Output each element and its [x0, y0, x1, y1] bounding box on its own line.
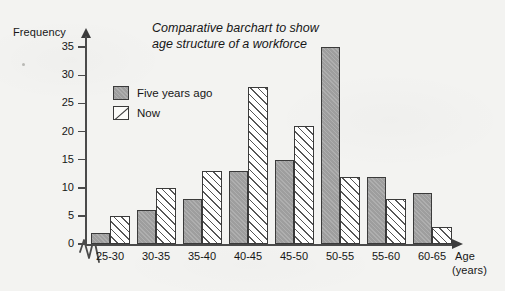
y-axis-tick-label: 15 — [44, 153, 74, 165]
y-axis-tick — [78, 131, 86, 133]
y-axis-tick — [78, 75, 86, 77]
y-axis-tick-label: 35 — [44, 40, 74, 52]
x-axis-label-35-40: 35-40 — [179, 250, 225, 262]
bar-group — [87, 36, 133, 244]
x-axis-line — [85, 244, 456, 246]
chart-legend: Five years agoNow — [113, 84, 212, 124]
x-axis-label-30-35: 30-35 — [133, 250, 179, 262]
bar-30-35-now — [156, 188, 176, 244]
chart-page: Comparative barchart to show age structu… — [0, 0, 505, 291]
y-axis-tick — [78, 243, 86, 245]
bar-50-55-five-years-ago — [321, 47, 341, 244]
bar-25-30-now — [110, 216, 130, 244]
bar-45-50-now — [294, 126, 314, 244]
y-axis-tick-label: 25 — [44, 96, 74, 108]
y-axis-tick-label: 5 — [44, 209, 74, 221]
bar-group — [133, 36, 179, 244]
x-axis-label-25-30: 25-30 — [87, 250, 133, 262]
x-axis-label-50-55: 50-55 — [317, 250, 363, 262]
x-axis-label-45-50: 45-50 — [271, 250, 317, 262]
bar-group — [317, 36, 363, 244]
y-axis-title: Frequency — [13, 26, 66, 38]
bar-35-40-now — [202, 171, 222, 244]
y-axis-tick-label: 20 — [44, 125, 74, 137]
legend-item: Five years ago — [113, 84, 212, 101]
y-axis-tick — [78, 46, 86, 48]
bar-group — [271, 36, 317, 244]
x-axis-label-55-60: 55-60 — [363, 250, 409, 262]
legend-swatch-now — [113, 106, 129, 120]
chart-title-line-1: Comparative barchart to show — [152, 20, 402, 36]
bar-25-30-five-years-ago — [91, 233, 111, 244]
scan-artifact-speck — [22, 63, 25, 66]
legend-label: Five years ago — [137, 87, 212, 99]
legend-label: Now — [137, 107, 160, 119]
y-axis-tick-label: 0 — [44, 237, 74, 249]
y-axis-tick — [78, 159, 86, 161]
bar-40-45-five-years-ago — [229, 171, 249, 244]
legend-swatch-five-years-ago — [113, 86, 129, 100]
legend-item: Now — [113, 104, 212, 121]
bar-45-50-five-years-ago — [275, 160, 295, 244]
bar-55-60-five-years-ago — [367, 177, 387, 244]
bar-group — [179, 36, 225, 244]
x-axis-label-60-65: 60-65 — [409, 250, 455, 262]
y-axis-tick — [78, 187, 86, 189]
bar-35-40-five-years-ago — [183, 199, 203, 244]
x-axis-title: Age — [455, 250, 475, 262]
bar-55-60-now — [386, 199, 406, 244]
bar-group — [409, 36, 455, 244]
y-axis-tick-label: 30 — [44, 68, 74, 80]
bar-50-55-now — [340, 177, 360, 244]
bar-40-45-now — [248, 87, 268, 244]
x-axis-label-40-45: 40-45 — [225, 250, 271, 262]
bar-group — [225, 36, 271, 244]
x-axis-title-units: (years) — [452, 264, 487, 276]
bar-60-65-now — [432, 227, 452, 244]
bar-60-65-five-years-ago — [413, 193, 433, 244]
bar-30-35-five-years-ago — [137, 210, 157, 244]
y-axis-tick — [78, 103, 86, 105]
plot-area — [87, 36, 455, 244]
y-axis-tick-label: 10 — [44, 181, 74, 193]
bar-group — [363, 36, 409, 244]
y-axis-tick — [78, 215, 86, 217]
